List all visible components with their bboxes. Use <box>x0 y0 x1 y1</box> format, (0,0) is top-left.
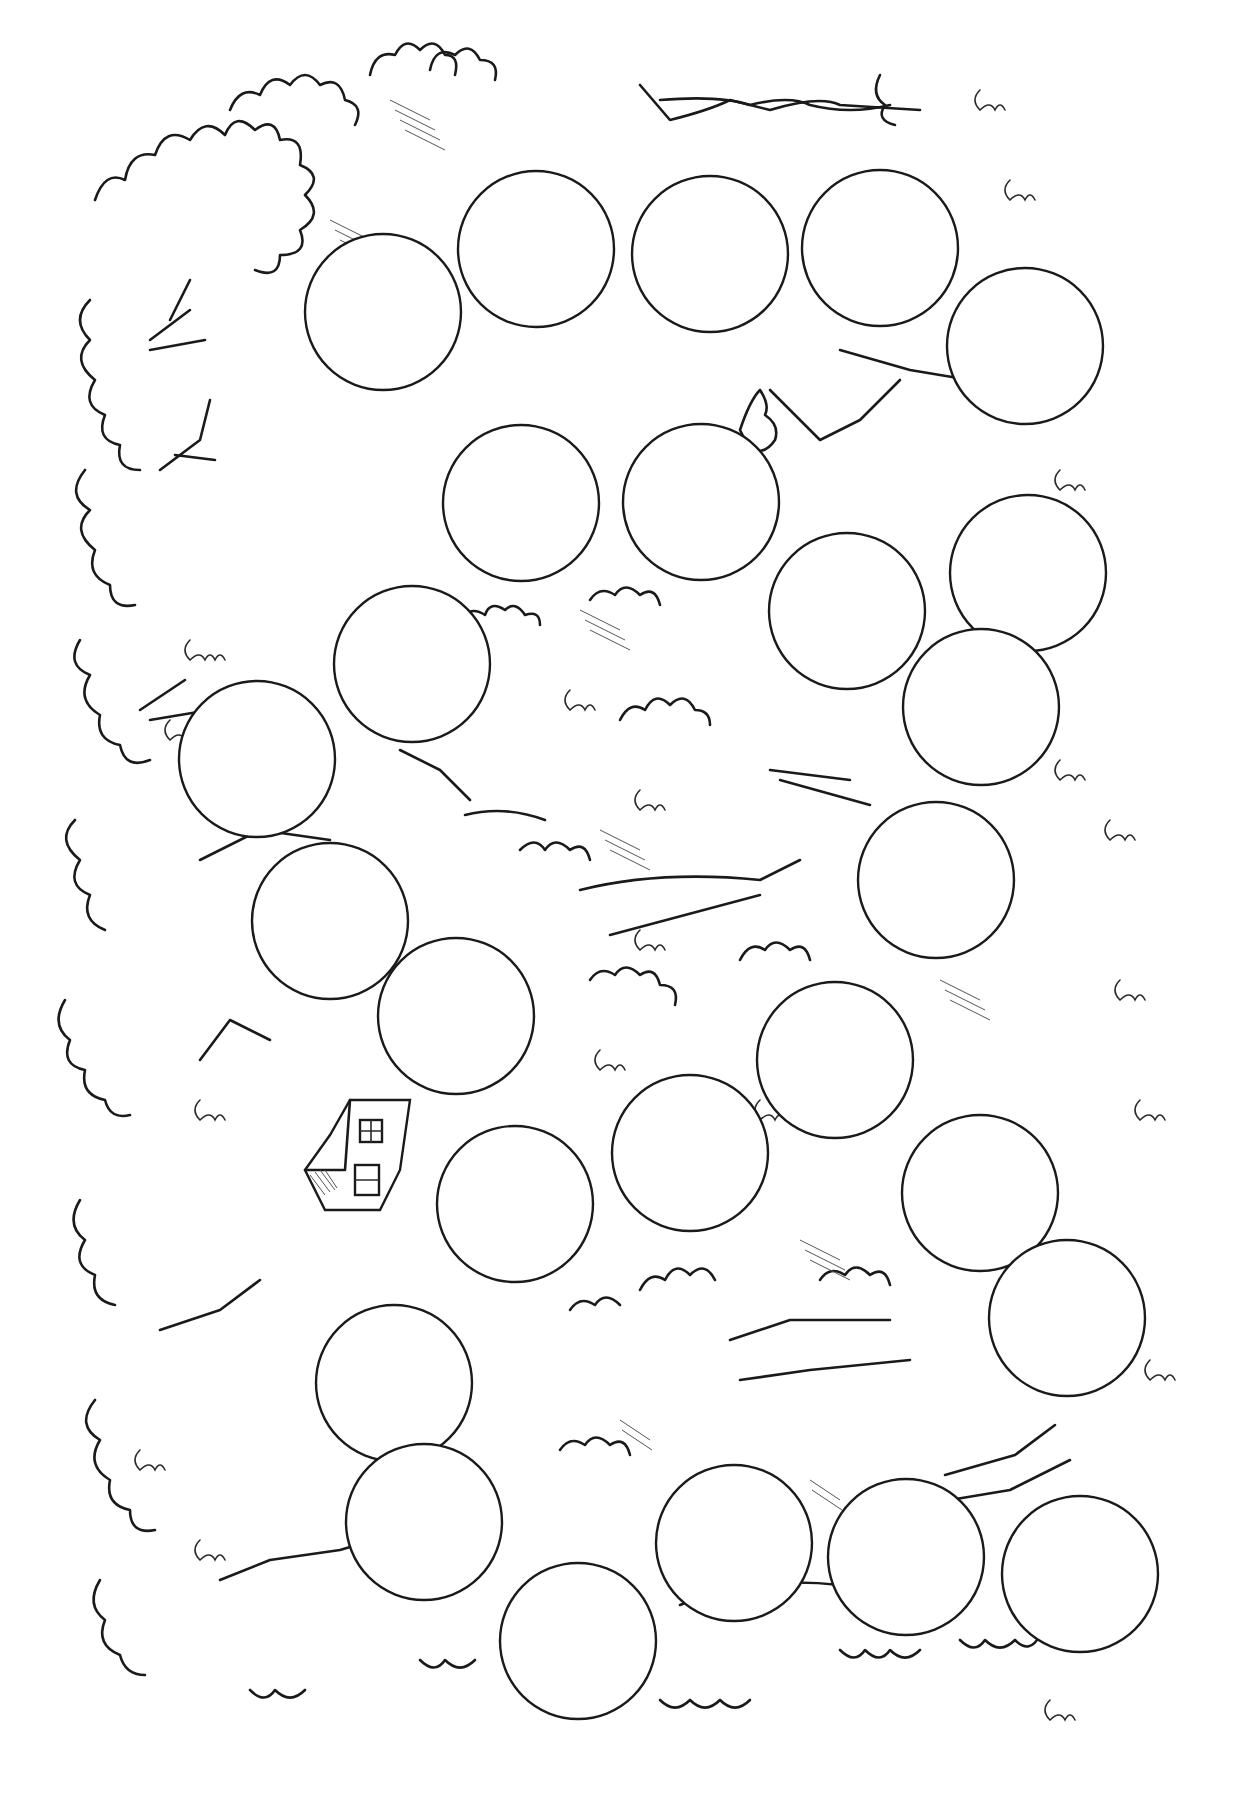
board-space-14[interactable] <box>858 802 1014 958</box>
board-space-13[interactable] <box>252 843 408 999</box>
board-space-11[interactable] <box>179 681 335 837</box>
board-space-2[interactable] <box>458 171 614 327</box>
board-space-12[interactable] <box>903 629 1059 785</box>
board-space-26[interactable] <box>500 1563 656 1719</box>
board-space-25[interactable] <box>1002 1496 1158 1652</box>
board-space-17[interactable] <box>612 1075 768 1231</box>
cabin-illustration <box>305 1100 410 1210</box>
board-space-21[interactable] <box>989 1240 1145 1396</box>
game-board <box>0 0 1238 1806</box>
board-space-5[interactable] <box>947 268 1103 424</box>
board-space-10[interactable] <box>334 586 490 742</box>
board-space-16[interactable] <box>757 982 913 1138</box>
board-space-4[interactable] <box>802 170 958 326</box>
board-space-19[interactable] <box>437 1126 593 1282</box>
board-space-9[interactable] <box>950 495 1106 651</box>
board-spaces <box>179 170 1158 1719</box>
board-space-15[interactable] <box>378 938 534 1094</box>
board-space-24[interactable] <box>828 1479 984 1635</box>
board-space-3[interactable] <box>632 176 788 332</box>
board-space-6[interactable] <box>443 425 599 581</box>
board-space-1[interactable] <box>305 234 461 390</box>
board-space-8[interactable] <box>769 533 925 689</box>
board-space-23[interactable] <box>656 1465 812 1621</box>
board-space-22[interactable] <box>346 1444 502 1600</box>
board-space-20[interactable] <box>316 1305 472 1461</box>
board-space-7[interactable] <box>623 424 779 580</box>
